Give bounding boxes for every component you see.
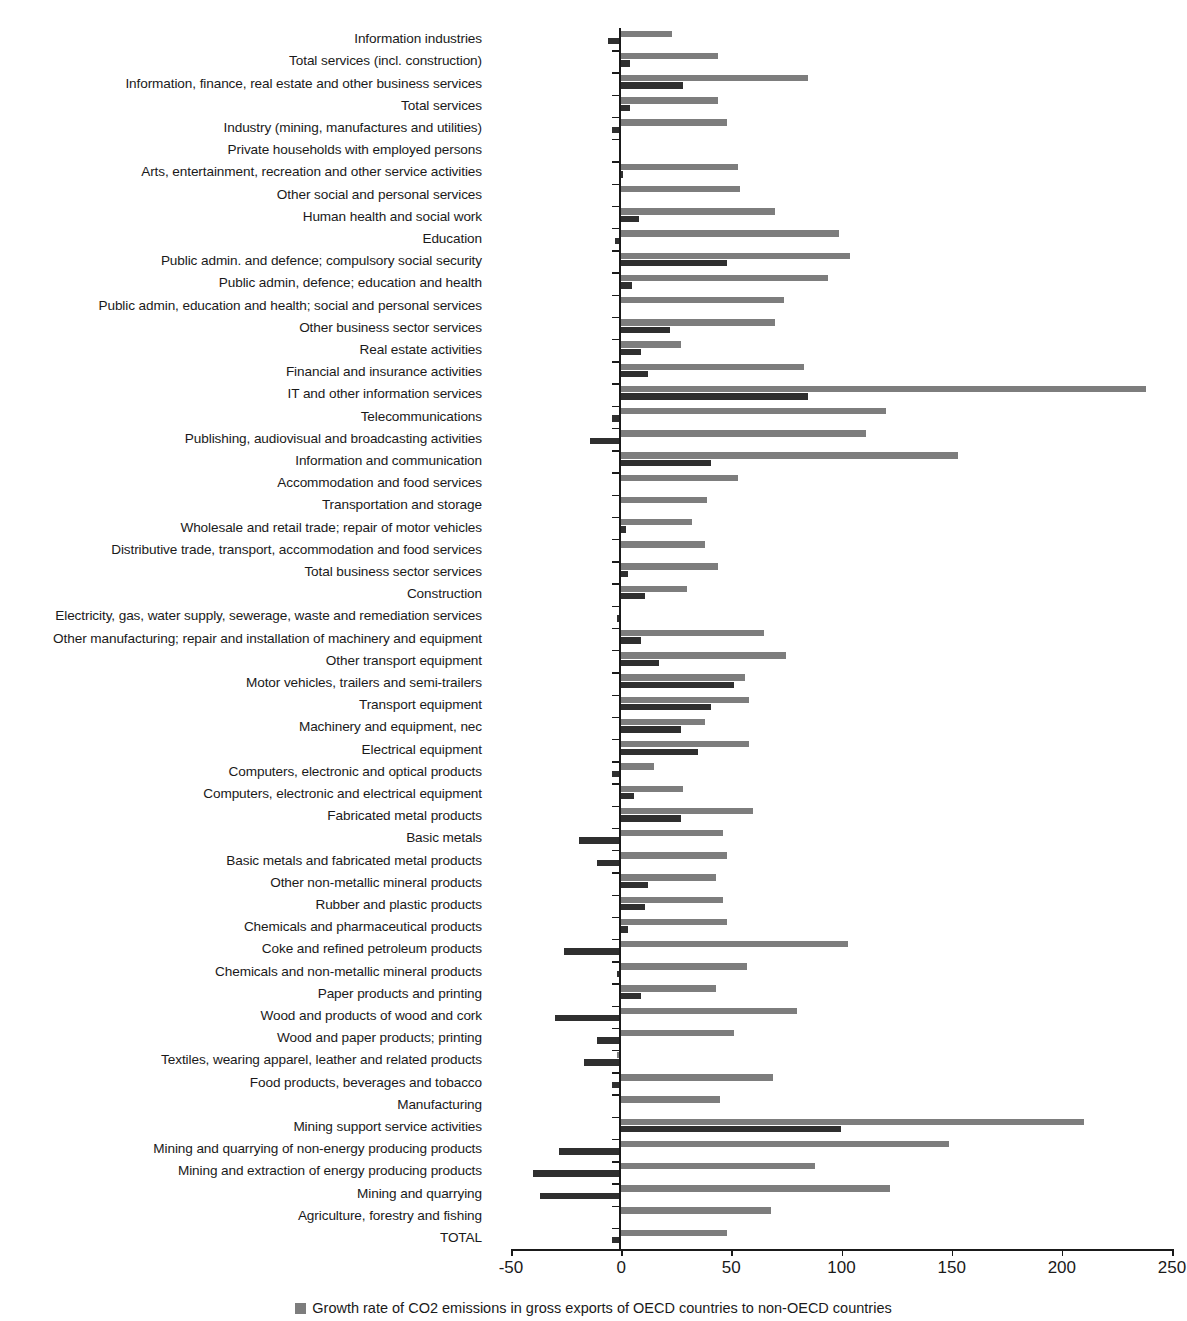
y-axis-tick <box>612 783 619 784</box>
bar-group <box>511 383 1172 405</box>
bar-series-0 <box>621 75 808 81</box>
y-axis-tick <box>612 606 619 607</box>
bar-group <box>511 1160 1172 1182</box>
chart-row: Mining and extraction of energy producin… <box>0 1160 1187 1182</box>
bar-series-0 <box>621 852 727 858</box>
bar-series-1 <box>621 60 630 66</box>
bar-group <box>511 1138 1172 1160</box>
bar-group <box>511 1027 1172 1049</box>
category-label: IT and other information services <box>288 386 482 402</box>
y-axis-tick <box>612 939 619 940</box>
category-label: Private households with employed persons <box>228 142 482 158</box>
bar-series-0 <box>621 874 716 880</box>
bar-group <box>511 716 1172 738</box>
bar-series-1 <box>621 793 634 799</box>
category-label: Mining and quarrying <box>357 1186 482 1202</box>
bar-series-0 <box>621 430 866 436</box>
bar-series-0 <box>621 319 775 325</box>
category-label: Computers, electronic and optical produc… <box>229 764 482 780</box>
chart-row: Textiles, wearing apparel, leather and r… <box>0 1049 1187 1071</box>
bar-group <box>511 272 1172 294</box>
chart-row: Electricity, gas, water supply, sewerage… <box>0 605 1187 627</box>
category-label: Rubber and plastic products <box>315 897 482 913</box>
x-axis-tick-label: 150 <box>937 1258 965 1278</box>
bar-group <box>511 95 1172 117</box>
y-axis-tick <box>612 1094 619 1095</box>
category-label: Mining support service activities <box>293 1119 482 1135</box>
bar-series-1 <box>621 993 641 999</box>
legend-swatch-icon <box>295 1303 306 1314</box>
x-axis-tick <box>1172 1249 1174 1256</box>
bar-group <box>511 694 1172 716</box>
category-label: Accommodation and food services <box>277 475 482 491</box>
bar-series-0 <box>621 297 784 303</box>
bar-series-0 <box>621 208 775 214</box>
y-axis-tick <box>612 72 619 73</box>
chart-row: Public admin, education and health; soci… <box>0 294 1187 316</box>
bar-series-0 <box>621 674 744 680</box>
bar-series-0 <box>621 630 764 636</box>
category-label: Real estate activities <box>360 342 482 358</box>
bar-series-1 <box>621 216 639 222</box>
chart-row: Information, finance, real estate and ot… <box>0 72 1187 94</box>
chart-row: Basic metals <box>0 827 1187 849</box>
co2-emissions-growth-bar-chart: Information industriesTotal services (in… <box>0 0 1187 1321</box>
category-label: Coke and refined petroleum products <box>262 941 482 957</box>
y-axis-tick <box>612 695 619 696</box>
y-axis-tick <box>612 1117 619 1118</box>
bar-series-0 <box>621 1230 727 1236</box>
category-label: Textiles, wearing apparel, leather and r… <box>161 1052 482 1068</box>
bar-series-0 <box>621 53 718 59</box>
y-axis-tick <box>612 1050 619 1051</box>
category-label: Financial and insurance activities <box>286 364 482 380</box>
x-axis-tick-label: 250 <box>1158 1258 1186 1278</box>
bar-group <box>511 428 1172 450</box>
chart-row: Transportation and storage <box>0 494 1187 516</box>
x-axis-tick <box>842 1249 844 1256</box>
bar-series-0 <box>621 697 749 703</box>
category-label: Information and communication <box>295 453 482 469</box>
y-axis-tick <box>612 272 619 273</box>
bar-group <box>511 516 1172 538</box>
y-axis-tick <box>612 850 619 851</box>
bar-series-1 <box>621 282 632 288</box>
y-axis-tick <box>612 628 619 629</box>
category-label: Chemicals and non-metallic mineral produ… <box>215 964 482 980</box>
category-label: Human health and social work <box>303 209 482 225</box>
category-label: Computers, electronic and electrical equ… <box>203 786 482 802</box>
bar-group <box>511 28 1172 50</box>
bar-series-0 <box>621 563 718 569</box>
chart-row: Computers, electronic and optical produc… <box>0 761 1187 783</box>
category-label: Telecommunications <box>361 409 482 425</box>
bar-series-0 <box>621 1074 773 1080</box>
bar-series-0 <box>621 341 680 347</box>
category-label: Wood and paper products; printing <box>277 1030 482 1046</box>
category-label: Transport equipment <box>359 697 482 713</box>
chart-row: Real estate activities <box>0 339 1187 361</box>
category-label: Wood and products of wood and cork <box>260 1008 482 1024</box>
bar-group <box>511 627 1172 649</box>
bar-series-1 <box>621 327 669 333</box>
chart-row: IT and other information services <box>0 383 1187 405</box>
category-label: Electrical equipment <box>362 742 482 758</box>
bar-series-1 <box>555 1015 621 1021</box>
y-axis-tick <box>612 1250 619 1251</box>
category-label: Other business sector services <box>299 320 482 336</box>
bar-group <box>511 961 1172 983</box>
bar-group <box>511 50 1172 72</box>
bar-group <box>511 650 1172 672</box>
category-label: Total services (incl. construction) <box>289 53 482 69</box>
bar-group <box>511 783 1172 805</box>
bar-group <box>511 1005 1172 1027</box>
y-axis-tick <box>612 383 619 384</box>
bar-series-1 <box>621 349 641 355</box>
bar-series-0 <box>621 31 672 37</box>
x-axis-tick-label: 0 <box>616 1258 625 1278</box>
y-axis-tick <box>612 650 619 651</box>
chart-row: Rubber and plastic products <box>0 894 1187 916</box>
y-axis-tick <box>612 961 619 962</box>
chart-row: Wholesale and retail trade; repair of mo… <box>0 516 1187 538</box>
bar-series-0 <box>621 1119 1084 1125</box>
bar-series-0 <box>621 408 885 414</box>
chart-row: Transport equipment <box>0 694 1187 716</box>
